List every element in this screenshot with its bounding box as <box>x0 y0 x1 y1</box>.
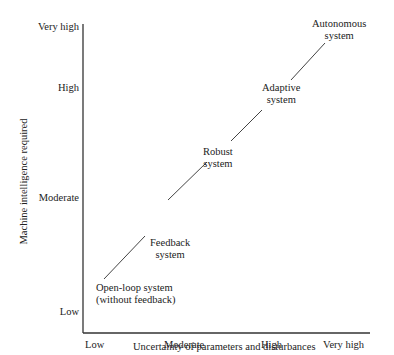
y-axis-label: Machine intelligence required <box>18 117 29 247</box>
segment-adaptive-autonomous <box>291 43 325 80</box>
x-tick-low: Low <box>85 339 104 351</box>
segment-robust-adaptive <box>231 110 262 141</box>
label-robust-line1: Robust <box>203 146 233 158</box>
label-open-loop-line2: (without feedback) <box>96 294 176 306</box>
label-adaptive: Adaptive system <box>262 82 301 106</box>
y-tick-high: High <box>58 82 79 94</box>
label-feedback-line2: system <box>150 249 190 261</box>
label-autonomous-line1: Autonomous <box>312 18 366 30</box>
diagram-canvas <box>0 0 394 355</box>
label-robust: Robust system <box>203 146 233 170</box>
y-tick-low: Low <box>60 306 79 318</box>
segment-feedback-robust <box>168 162 207 200</box>
label-autonomous: Autonomous system <box>312 18 366 42</box>
y-tick-very-high: Very high <box>38 21 79 33</box>
label-open-loop-line1: Open-loop system <box>96 282 176 294</box>
segment-openloop-feedback <box>104 236 145 279</box>
label-feedback-line1: Feedback <box>150 237 190 249</box>
label-open-loop: Open-loop system (without feedback) <box>96 282 176 306</box>
x-tick-very-high: Very high <box>323 339 364 351</box>
label-adaptive-line2: system <box>262 94 301 106</box>
label-robust-line2: system <box>203 158 233 170</box>
y-tick-moderate: Moderate <box>39 192 79 204</box>
label-autonomous-line2: system <box>312 30 366 42</box>
label-adaptive-line1: Adaptive <box>262 82 301 94</box>
x-axis-label: Uncertainty of parameters and disturbanc… <box>133 341 316 353</box>
label-feedback: Feedback system <box>150 237 190 261</box>
